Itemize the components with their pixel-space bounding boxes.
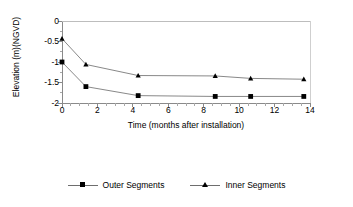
legend-marker-square-icon xyxy=(68,180,98,190)
data-point-square-marker xyxy=(248,94,253,99)
x-tick-label: 2 xyxy=(86,106,108,115)
data-point-square-marker xyxy=(84,84,89,89)
x-tick-label: 10 xyxy=(228,106,250,115)
data-point-square-marker xyxy=(136,93,141,98)
x-axis-title: Time (months after installation) xyxy=(62,120,310,130)
data-point-triangle-marker xyxy=(59,36,64,41)
y-tick-label: 0 xyxy=(33,17,59,26)
y-axis-title: Elevation (m)(NGVD) xyxy=(11,0,21,117)
legend-marker-triangle-icon xyxy=(190,180,220,190)
x-axis-tick-labels: 0 2 4 6 8 10 12 14 xyxy=(0,106,353,118)
data-point-square-marker xyxy=(213,94,218,99)
data-series-layer xyxy=(59,36,306,99)
chart-container: 0 -0.5 -1 -1.5 -2 0 2 4 6 8 10 12 14 Tim… xyxy=(0,0,353,207)
data-point-square-marker xyxy=(60,60,65,65)
y-tick-label: -0.5 xyxy=(33,37,59,46)
x-tick-label: 12 xyxy=(264,106,286,115)
series-inner-segments xyxy=(59,36,306,81)
series-line xyxy=(62,39,304,80)
y-tick-label: -1.5 xyxy=(33,78,59,87)
x-tick-label: 6 xyxy=(157,106,179,115)
x-tick-label: 8 xyxy=(193,106,215,115)
axis-lines xyxy=(62,21,310,103)
x-tick-label: 4 xyxy=(122,106,144,115)
y-tick-label: -1 xyxy=(33,58,59,67)
chart-legend: Outer Segments Inner Segments xyxy=(0,176,353,194)
series-outer-segments xyxy=(60,60,307,99)
data-point-square-marker xyxy=(301,94,306,99)
legend-item-outer-segments: Outer Segments xyxy=(68,180,165,190)
legend-label: Outer Segments xyxy=(103,180,165,190)
x-tick-label: 0 xyxy=(51,106,73,115)
legend-item-inner-segments: Inner Segments xyxy=(190,180,285,190)
x-tick-label: 14 xyxy=(299,106,321,115)
legend-label: Inner Segments xyxy=(225,180,285,190)
